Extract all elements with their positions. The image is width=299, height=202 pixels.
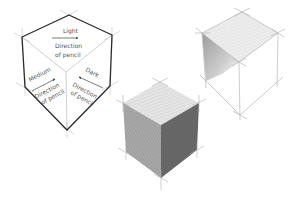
light-direction-line1: Direction	[55, 42, 82, 49]
light-label: Light	[63, 27, 79, 35]
medium-label: Medium	[27, 65, 52, 83]
face-divider-lines	[22, 35, 112, 130]
medium-label-group: Medium	[27, 65, 52, 83]
fully-shaded-cube	[116, 78, 206, 190]
medium-direction-group: Direction of pencil	[33, 80, 66, 108]
labeled-outline-cube: Light Direction of pencil Medium Directi…	[14, 10, 120, 138]
shading-diagram: Light Direction of pencil Medium Directi…	[0, 0, 299, 202]
partially-shaded-cube	[195, 8, 285, 120]
dark-label-group: Dark	[85, 66, 101, 79]
dark-direction-group: Direction of pencil	[67, 81, 99, 108]
dark-label: Dark	[85, 66, 101, 79]
light-direction-line2: of pencil	[55, 51, 81, 59]
